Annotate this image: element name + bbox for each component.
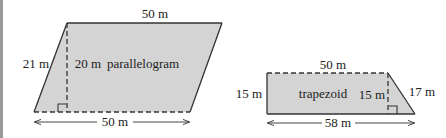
trapezoid-figure: 50 m 15 m trapezoid 15 m 17 m 58 m xyxy=(236,57,435,130)
trapezoid-top-label: 50 m xyxy=(320,57,346,72)
parallelogram-top-label: 50 m xyxy=(142,6,168,21)
trapezoid-slant-label: 17 m xyxy=(409,84,435,99)
parallelogram-figure: 50 m 21 m 20 m parallelogram 50 m xyxy=(23,6,222,129)
geometry-diagram: 50 m 21 m 20 m parallelogram 50 m 50 m 1… xyxy=(0,0,446,138)
trapezoid-left-label: 15 m xyxy=(236,86,262,101)
trapezoid-name-label: trapezoid xyxy=(299,86,348,101)
parallelogram-name-label: parallelogram xyxy=(107,56,179,71)
parallelogram-base-label: 50 m xyxy=(102,114,128,129)
parallelogram-side-label: 21 m xyxy=(23,56,49,71)
trapezoid-height-label: 15 m xyxy=(359,87,385,102)
parallelogram-height-label: 20 m xyxy=(75,56,101,71)
trapezoid-base-label: 58 m xyxy=(325,115,351,130)
